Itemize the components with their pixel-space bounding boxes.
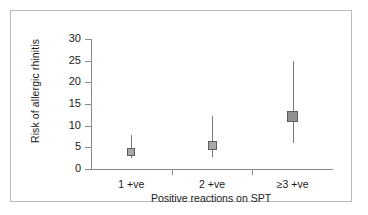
x-tick-separator xyxy=(172,169,173,175)
data-point-marker xyxy=(127,148,135,156)
x-axis-line xyxy=(91,169,333,170)
error-bar-whisker xyxy=(212,116,213,158)
y-tick-label: 0 xyxy=(35,163,81,174)
x-tick-label: 1 +ve xyxy=(86,178,176,190)
y-tick-label: 25 xyxy=(35,55,81,66)
data-point-marker xyxy=(208,141,217,150)
x-tick-separator xyxy=(252,169,253,175)
y-tick-mark xyxy=(85,169,91,170)
chart-frame: Risk of allergic rhinitis 051015202530 1… xyxy=(10,10,352,202)
x-axis-title: Positive reactions on SPT xyxy=(71,192,351,204)
x-tick-label: ≥3 +ve xyxy=(248,178,338,190)
y-tick-label: 10 xyxy=(35,120,81,131)
y-tick-label: 30 xyxy=(35,33,81,44)
y-tick-label: 20 xyxy=(35,76,81,87)
error-bar-whisker xyxy=(293,61,294,144)
figure-canvas: Risk of allergic rhinitis 051015202530 1… xyxy=(0,0,368,215)
x-tick-label: 2 +ve xyxy=(167,178,257,190)
y-tick-label: 15 xyxy=(35,98,81,109)
data-point-marker xyxy=(287,111,298,122)
y-tick-label: 5 xyxy=(35,141,81,152)
